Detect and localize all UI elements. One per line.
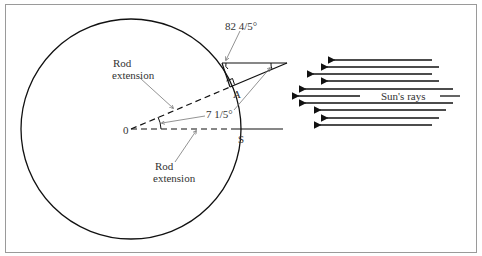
angle-arc-top [226, 63, 228, 69]
angle-label-82: 82 4/5° [225, 20, 257, 32]
rod-extension-lower-line2: extension [153, 172, 195, 184]
leader-82 [226, 31, 240, 60]
sun-rays-label: Sun's rays [379, 90, 427, 102]
angle-arc-rod [271, 63, 272, 69]
leader-rod-lower [175, 131, 196, 162]
angle-arc-center [158, 117, 161, 129]
rod-alexandria [230, 63, 287, 87]
point-label-a: A [233, 88, 241, 100]
point-label-o: 0 [123, 124, 129, 136]
leader-7-to-arc [162, 116, 205, 123]
earth-measurement-diagram [0, 0, 482, 256]
rod-extension-upper-line2: extension [112, 69, 154, 81]
angle-label-7: 7 1/5° [206, 108, 233, 120]
rod-extension-lower-line1: Rod [155, 160, 173, 172]
leader-rod-upper [140, 78, 173, 108]
rod-extension-upper-line1: Rod [113, 57, 131, 69]
point-label-s: S [238, 133, 244, 145]
